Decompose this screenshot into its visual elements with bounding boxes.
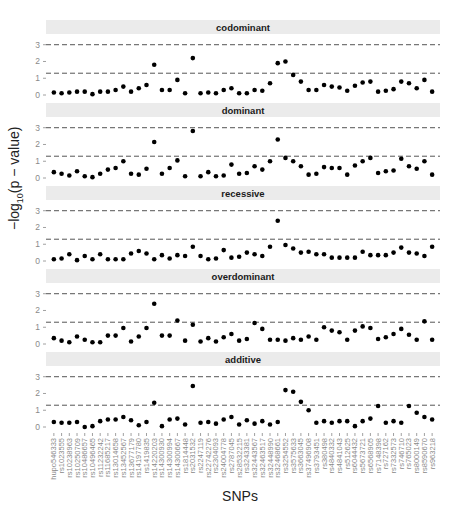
data-point (221, 173, 226, 178)
data-point (129, 251, 134, 256)
data-point (136, 249, 141, 254)
data-point (329, 255, 334, 260)
data-point (183, 91, 188, 96)
data-point (106, 257, 111, 262)
data-point (183, 174, 188, 179)
data-point (129, 89, 134, 94)
data-point (422, 159, 427, 164)
data-point (414, 251, 419, 256)
data-point (322, 83, 327, 88)
data-point (75, 334, 80, 339)
data-point (422, 319, 427, 324)
data-point (283, 338, 288, 343)
data-point (376, 253, 381, 258)
data-point (175, 253, 180, 258)
data-point (206, 257, 211, 262)
y-tick-label: 3 (35, 40, 40, 50)
data-point (306, 172, 311, 177)
data-point (275, 420, 280, 425)
data-point (245, 171, 250, 176)
data-point (167, 256, 172, 261)
data-point (98, 252, 103, 257)
data-point (90, 424, 95, 429)
data-point (252, 252, 257, 257)
data-point (353, 424, 358, 429)
data-point (90, 175, 95, 180)
x-tick-label: rs963218 (428, 438, 437, 469)
data-point (136, 334, 141, 339)
data-point (430, 172, 435, 177)
data-point (306, 249, 311, 254)
data-point (129, 339, 134, 344)
data-point (136, 86, 141, 91)
data-point (299, 79, 304, 84)
data-point (106, 167, 111, 172)
data-point (160, 253, 165, 258)
data-point (314, 338, 319, 343)
data-point (229, 255, 234, 260)
data-point (206, 336, 211, 341)
data-point (314, 172, 319, 177)
data-point (206, 90, 211, 95)
data-point (183, 422, 188, 427)
data-point (430, 89, 435, 94)
facet-dominant: dominant0123 (35, 103, 440, 184)
data-point (399, 327, 404, 332)
data-point (229, 162, 234, 167)
y-tick-label: 1 (35, 239, 40, 249)
data-point (360, 159, 365, 164)
data-point (221, 417, 226, 422)
facet-additive: additive0123hupo546333rs1023555rs1023896… (35, 352, 440, 480)
y-tick-label: 1 (35, 156, 40, 166)
data-point (167, 333, 172, 338)
data-point (152, 301, 157, 306)
data-point (198, 254, 203, 259)
data-point (113, 333, 118, 338)
data-point (90, 257, 95, 262)
data-point (430, 417, 435, 422)
data-point (384, 89, 389, 94)
data-point (391, 332, 396, 337)
data-point (52, 90, 57, 95)
data-point (198, 421, 203, 426)
data-point (422, 415, 427, 420)
data-point (98, 89, 103, 94)
data-point (345, 172, 350, 177)
data-point (75, 89, 80, 94)
data-point (430, 244, 435, 249)
data-point (329, 166, 334, 171)
data-point (198, 91, 203, 96)
data-point (260, 327, 265, 332)
data-point (368, 79, 373, 84)
data-point (113, 257, 118, 262)
data-point (306, 88, 311, 93)
facet-title: codominant (216, 22, 271, 33)
y-tick-label: 0 (35, 422, 40, 432)
y-tick-label: 1 (35, 322, 40, 332)
facet-scatter-chart: codominant0123dominant0123recessive0123o… (0, 0, 467, 510)
data-point (144, 420, 149, 425)
data-point (191, 322, 196, 327)
data-point (384, 421, 389, 426)
panel-background (46, 200, 440, 267)
data-point (391, 419, 396, 424)
data-point (121, 84, 126, 89)
data-point (314, 421, 319, 426)
data-point (414, 338, 419, 343)
y-tick-label: 3 (35, 206, 40, 216)
data-point (329, 328, 334, 333)
data-point (337, 85, 342, 90)
data-point (152, 400, 157, 405)
data-point (160, 88, 165, 93)
data-point (52, 336, 57, 341)
data-point (268, 244, 273, 249)
data-point (245, 91, 250, 96)
data-point (376, 171, 381, 176)
data-point (191, 244, 196, 249)
panel-background (46, 34, 440, 101)
data-point (391, 168, 396, 173)
data-point (299, 400, 304, 405)
data-point (275, 218, 280, 223)
data-point (129, 418, 134, 423)
data-point (391, 250, 396, 255)
